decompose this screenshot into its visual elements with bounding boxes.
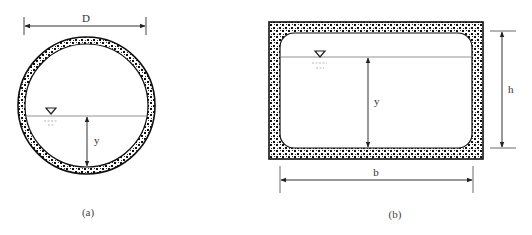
caption-a: (a) (82, 206, 95, 219)
panel-a: D y (a) (18, 12, 155, 219)
depth-label-b: y (374, 95, 380, 107)
depth-dimension-a: y (87, 117, 100, 166)
height-dimension: h (490, 31, 516, 148)
caption-b: (b) (389, 208, 402, 221)
rectangular-conduit-wall (269, 22, 483, 159)
conduit-diagram: D y (a) (0, 0, 532, 235)
height-label: h (508, 83, 514, 95)
water-surface-icon (44, 108, 58, 125)
width-dimension: b (280, 166, 473, 193)
width-label: b (373, 166, 379, 178)
depth-label-a: y (94, 134, 100, 146)
diameter-label: D (82, 12, 90, 24)
diameter-dimension: D (24, 12, 146, 35)
panel-b: y h b (b) (269, 22, 516, 221)
